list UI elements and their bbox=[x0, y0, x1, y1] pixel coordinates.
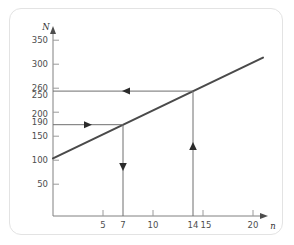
x-axis-ticks bbox=[103, 210, 253, 216]
main-line-series bbox=[53, 58, 263, 159]
construction-260-arrowhead-left bbox=[122, 88, 130, 95]
x-tick-label-10: 10 bbox=[148, 220, 159, 230]
x-tick-label-group: 5 7 10 14 15 20 bbox=[100, 220, 258, 230]
y-tick-label-300: 300 bbox=[32, 59, 48, 69]
y-tick-label-50: 50 bbox=[37, 179, 48, 189]
y-axis-label: N bbox=[41, 22, 50, 32]
construction-line-14-up bbox=[189, 91, 197, 216]
y-tick-label-group: 350 300 260 250 200 190 150 100 50 bbox=[32, 35, 48, 189]
x-tick-label-15: 15 bbox=[201, 220, 212, 230]
x-axis-label: n bbox=[270, 221, 275, 231]
y-tick-label-150: 150 bbox=[32, 131, 48, 141]
construction-line-7-down bbox=[119, 125, 127, 216]
x-tick-label-14: 14 bbox=[188, 220, 199, 230]
construction-7-arrowhead-down bbox=[119, 163, 127, 171]
x-tick-label-20: 20 bbox=[248, 220, 259, 230]
y-tick-label-250: 250 bbox=[32, 90, 48, 100]
x-tick-label-7: 7 bbox=[120, 220, 125, 230]
y-axis-arrowhead bbox=[50, 26, 56, 34]
construction-14-arrowhead-up bbox=[189, 142, 197, 150]
axes-group bbox=[50, 26, 268, 219]
construction-190-arrowhead-right bbox=[84, 121, 92, 128]
y-tick-label-190: 190 bbox=[32, 117, 48, 127]
figure-frame: 350 300 260 250 200 190 150 100 50 5 7 1… bbox=[9, 8, 283, 235]
y-axis-ticks bbox=[53, 40, 59, 184]
construction-line-190 bbox=[53, 121, 123, 128]
x-tick-label-5: 5 bbox=[100, 220, 105, 230]
construction-line-260 bbox=[53, 88, 193, 95]
y-tick-label-100: 100 bbox=[32, 155, 48, 165]
y-tick-label-350: 350 bbox=[32, 35, 48, 45]
coordinate-plot: 350 300 260 250 200 190 150 100 50 5 7 1… bbox=[10, 9, 284, 236]
x-axis-arrowhead bbox=[260, 213, 268, 219]
